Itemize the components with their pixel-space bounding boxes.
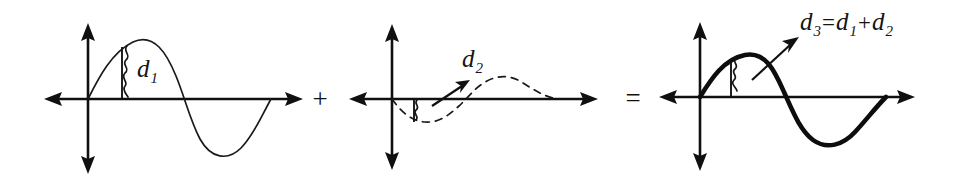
panel2-label-d2: d2 — [462, 45, 484, 76]
panel-first-wave: d1 — [44, 23, 303, 174]
operator-equals: = — [625, 83, 640, 113]
panel2-amplitude-marker — [414, 99, 418, 122]
panel2-pointer-arrow — [432, 80, 470, 106]
panel1-amplitude-marker — [122, 46, 128, 99]
panel3-amplitude-marker — [731, 58, 737, 97]
panel-second-wave: d2 — [349, 24, 598, 170]
panel2-brace-glyph — [415, 100, 418, 120]
wave-superposition-figure: d1 + — [0, 0, 967, 191]
panel1-brace-glyph — [123, 46, 128, 97]
operator-plus: + — [312, 84, 327, 114]
panel3-label-d3-sum: d3=d1+d2 — [800, 8, 893, 39]
panel2-y-axis — [385, 24, 399, 170]
panel1-label-d1: d1 — [137, 55, 158, 86]
panel2-x-axis — [349, 92, 598, 106]
panel1-x-axis — [44, 92, 303, 106]
panel-sum-wave: d3=d1+d2 — [659, 8, 915, 171]
panel3-brace-glyph — [733, 58, 737, 91]
panel3-sine-curve — [700, 55, 886, 146]
